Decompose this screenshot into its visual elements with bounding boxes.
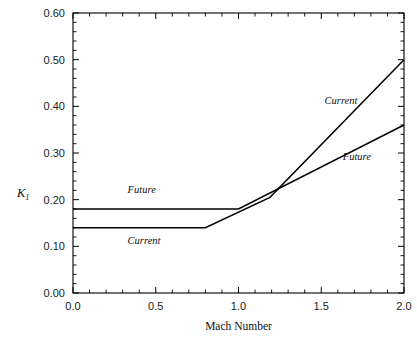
y-tick-label: 0.30 (44, 147, 65, 159)
x-tick-label: 2.0 (396, 300, 411, 312)
annotation-current: Current (325, 95, 359, 106)
chart-figure: 0.000.100.200.300.400.500.60 0.00.51.01.… (0, 0, 417, 340)
x-tick-label: 1.0 (231, 300, 246, 312)
x-tick-label: 0.5 (148, 300, 163, 312)
annotation-future: Future (342, 151, 372, 162)
annotation-current: Current (128, 235, 162, 246)
line-chart-svg: 0.000.100.200.300.400.500.60 0.00.51.01.… (0, 0, 417, 340)
y-tick-label: 0.00 (44, 287, 65, 299)
x-axis-title: Mach Number (205, 320, 272, 332)
y-tick-label: 0.50 (44, 54, 65, 66)
y-tick-label: 0.60 (44, 7, 65, 19)
y-tick-label: 0.20 (44, 194, 65, 206)
x-tick-label: 1.5 (314, 300, 329, 312)
y-tick-label: 0.10 (44, 240, 65, 252)
x-tick-label: 0.0 (65, 300, 80, 312)
y-tick-label: 0.40 (44, 100, 65, 112)
annotation-future: Future (127, 184, 157, 195)
